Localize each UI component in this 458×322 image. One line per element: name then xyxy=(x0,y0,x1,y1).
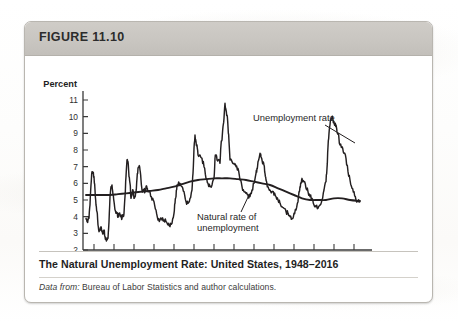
y-tick-label: 10 xyxy=(69,112,79,122)
figure-source-note: Data from: Bureau of Labor Statistics an… xyxy=(39,282,422,292)
source-prefix: Data from: xyxy=(39,282,80,292)
y-tick-label: 7 xyxy=(73,162,78,172)
y-tick-label: 11 xyxy=(69,95,78,105)
caption-divider-top xyxy=(39,251,418,252)
unemployment-line-chart: 234567891011Percent195019551960196519701… xyxy=(25,55,432,251)
chart-annotations: Unemployment rateNatural rate ofunemploy… xyxy=(197,112,355,233)
y-axis-title: Percent xyxy=(43,79,77,89)
chart-plot-area: 234567891011Percent195019551960196519701… xyxy=(25,55,432,251)
source-text: Bureau of Labor Statistics and author ca… xyxy=(80,282,277,292)
y-tick-label: 6 xyxy=(73,178,78,188)
figure-caption-title: The Natural Unemployment Rate: United St… xyxy=(39,258,422,270)
y-tick-label: 4 xyxy=(73,212,78,222)
figure-card: FIGURE 11.10 234567891011Percent19501955… xyxy=(24,21,433,303)
y-tick-label: 9 xyxy=(73,128,78,138)
natural-rate-line xyxy=(86,178,360,201)
annotation-natural-rate: Natural rate ofunemployment xyxy=(197,211,259,233)
figure-caption-zone: The Natural Unemployment Rate: United St… xyxy=(25,251,432,302)
y-tick-label: 3 xyxy=(73,228,78,238)
caption-divider-bottom xyxy=(39,277,418,278)
annotation-unemployment-rate: Unemployment rate xyxy=(253,112,335,123)
figure-number-label: FIGURE 11.10 xyxy=(39,30,125,44)
y-tick-label: 8 xyxy=(73,145,78,155)
leader-line-natural-rate xyxy=(241,195,249,212)
y-tick-label: 5 xyxy=(73,195,78,205)
